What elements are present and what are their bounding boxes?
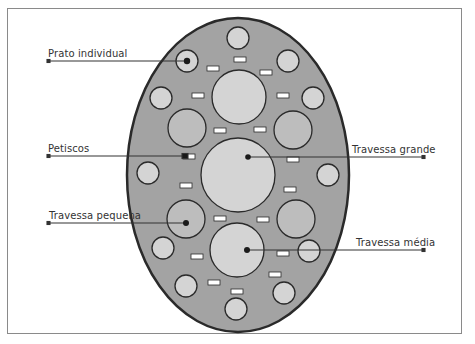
snack bbox=[260, 70, 272, 75]
label-prato-individual: Prato individual bbox=[48, 48, 127, 59]
snack bbox=[284, 187, 296, 192]
plate bbox=[225, 298, 247, 320]
snack bbox=[287, 157, 299, 162]
label-travessa-pequena: Travessa pequena bbox=[49, 210, 141, 221]
medium-platter-right-bottom bbox=[277, 200, 315, 238]
snack bbox=[254, 127, 266, 132]
travessa-grande-platter bbox=[201, 138, 275, 212]
plate bbox=[137, 162, 159, 184]
snack bbox=[269, 272, 281, 277]
snack bbox=[234, 57, 246, 62]
label-petiscos: Petiscos bbox=[48, 143, 89, 154]
medium-platter-left-top bbox=[168, 109, 206, 147]
snack bbox=[257, 217, 269, 222]
plate bbox=[298, 240, 320, 262]
top-large-platter bbox=[212, 70, 266, 124]
plate bbox=[227, 27, 249, 49]
travessa-pequena-platter bbox=[167, 200, 205, 238]
label-travessa-grande: Travessa grande bbox=[352, 144, 436, 155]
snack bbox=[207, 66, 219, 71]
snack bbox=[214, 128, 226, 133]
label-travessa-media: Travessa média bbox=[356, 237, 435, 248]
large-platters bbox=[201, 70, 275, 277]
snack bbox=[208, 280, 220, 285]
snack bbox=[214, 216, 226, 221]
plate bbox=[302, 87, 324, 109]
snack bbox=[192, 93, 204, 98]
plate bbox=[175, 275, 197, 297]
medium-platter-right-top bbox=[274, 111, 312, 149]
snack bbox=[277, 251, 289, 256]
plate bbox=[150, 87, 172, 109]
snack bbox=[180, 183, 192, 188]
snack bbox=[191, 254, 203, 259]
plate bbox=[152, 237, 174, 259]
snack bbox=[231, 289, 243, 294]
plate bbox=[273, 282, 295, 304]
snack bbox=[277, 93, 289, 98]
plate bbox=[277, 50, 299, 72]
plate bbox=[317, 164, 339, 186]
